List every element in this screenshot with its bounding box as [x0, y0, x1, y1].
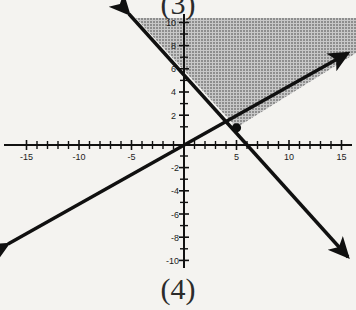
y-tick-label: 8 [171, 41, 176, 51]
figure-caption-top: (3) [0, 0, 356, 21]
intersection-point [232, 123, 241, 132]
figure-caption-bottom: (4) [0, 272, 356, 306]
y-tick-label: -10 [166, 256, 179, 266]
x-tick-label: -15 [20, 152, 33, 162]
y-tick-label: 2 [171, 111, 176, 121]
x-tick-label: 5 [234, 152, 239, 162]
x-tick-label: 10 [284, 152, 294, 162]
y-tick-label: -8 [171, 233, 179, 243]
graph-canvas: -15 -10 -5 5 10 15 [0, 0, 356, 310]
y-tick-label: -2 [171, 163, 179, 173]
x-tick-label: -10 [72, 152, 85, 162]
y-tick-label: -4 [171, 186, 179, 196]
y-tick-label: 4 [171, 87, 176, 97]
x-tick-label: -5 [127, 152, 135, 162]
coordinate-graph: (3) [0, 0, 356, 310]
y-tick-label: -6 [171, 210, 179, 220]
x-tick-label: 15 [336, 152, 346, 162]
